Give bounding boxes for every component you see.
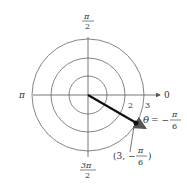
label-radius-2: 2: [128, 101, 133, 110]
label-0: 0: [164, 90, 170, 100]
label-theta-eq: = −: [151, 115, 169, 125]
point-label-open: (3, −: [113, 151, 136, 161]
label-pi-over-2-den: 2: [85, 22, 90, 31]
label-3pi-over-2-num: 3π: [81, 161, 92, 170]
label-theta-num: π: [171, 110, 178, 119]
polar-diagram: 0 π π 2 3π 2 2 3 θ = − π 6 (3, − π 6 ): [0, 0, 187, 185]
label-theta: θ: [143, 114, 149, 125]
label-pi-over-2-num: π: [83, 12, 90, 21]
label-radius-3: 3: [145, 101, 150, 110]
point-label-close: ): [148, 151, 152, 161]
point-label-num: π: [137, 146, 144, 155]
point-marker: [134, 121, 139, 126]
label-pi-left: π: [18, 90, 26, 100]
label-3pi-over-2-den: 2: [85, 171, 90, 180]
point-label-den: 6: [138, 158, 143, 167]
label-theta-den: 6: [172, 122, 177, 131]
